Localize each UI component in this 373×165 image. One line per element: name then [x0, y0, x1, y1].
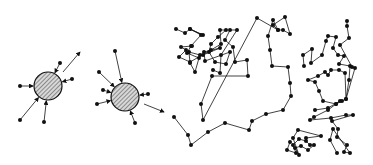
impact-arrow	[97, 101, 110, 104]
particle-group-1	[18, 52, 80, 124]
trajectory-dot	[190, 44, 194, 48]
trajectory-dot	[337, 68, 341, 72]
trajectory-dot	[345, 24, 349, 28]
random-walk-layer	[172, 15, 357, 157]
trajectory-dot	[350, 65, 354, 69]
molecule-dot	[133, 121, 137, 125]
trajectory-dot	[266, 34, 270, 38]
trajectory-dot	[296, 128, 300, 132]
trajectory-dot	[326, 73, 330, 77]
trajectory-dot	[308, 118, 312, 122]
trajectory-dot	[184, 48, 188, 52]
trajectory-dot	[223, 121, 227, 125]
motion-arrow	[144, 104, 164, 112]
impact-arrow	[115, 51, 122, 82]
impact-arrow	[99, 72, 114, 87]
trajectory-dot	[216, 35, 220, 39]
trajectory-dot	[344, 97, 348, 101]
large-particle	[34, 72, 62, 100]
trajectory-dot	[310, 47, 314, 51]
trajectory-dot	[209, 48, 213, 52]
trajectory-dot	[211, 68, 215, 72]
trajectory-dot	[219, 42, 223, 46]
trajectory-dot	[270, 64, 274, 68]
trajectory-dot	[319, 134, 323, 138]
trajectory-dot	[188, 60, 192, 64]
molecule-dot	[95, 102, 99, 106]
trajectory-dot	[302, 64, 306, 68]
trajectory-dot	[335, 135, 339, 139]
trajectory-dot	[312, 115, 316, 119]
trajectory-dot	[268, 48, 272, 52]
trajectory-dot	[188, 27, 192, 31]
trajectory-dot	[183, 31, 187, 35]
trajectory-dot	[335, 151, 339, 155]
molecule-dot	[113, 49, 117, 53]
trajectory-dot	[179, 45, 183, 49]
molecule-dot	[146, 92, 150, 96]
trajectory-dot	[281, 108, 285, 112]
trajectory-dot	[301, 53, 305, 57]
trajectory-dot	[285, 148, 289, 152]
trajectory-dot	[347, 78, 351, 82]
trajectory-dot	[297, 153, 301, 157]
trajectory-dot	[334, 102, 338, 106]
trajectory-dot	[224, 62, 228, 66]
trajectory-dot	[291, 136, 295, 140]
trajectory-dot	[342, 150, 346, 154]
trajectory-dot	[334, 35, 338, 39]
trajectory-dot	[199, 102, 203, 106]
trajectory-dot	[326, 34, 330, 38]
molecule-dot	[42, 120, 46, 124]
trajectory-dot	[288, 32, 292, 36]
trajectory-dot	[209, 42, 213, 46]
trajectory-dot	[316, 74, 320, 78]
trajectory-dot	[210, 74, 214, 78]
trajectory-dot	[343, 71, 347, 75]
trajectory-dot	[233, 60, 237, 64]
trajectory-dot	[246, 74, 250, 78]
trajectory-dot	[213, 60, 217, 64]
trajectory-dot	[224, 28, 228, 32]
trajectory-cluster-b	[285, 128, 323, 157]
trajectory-dot	[202, 50, 206, 54]
trajectory-dot	[336, 127, 340, 131]
trajectory-dot	[342, 54, 346, 58]
trajectory-dot	[206, 130, 210, 134]
trajectory-dot	[223, 38, 227, 42]
trajectory-dot	[177, 55, 181, 59]
trajectory-dot	[247, 128, 251, 132]
trajectory-dot	[313, 80, 317, 84]
trajectory-dot	[293, 146, 297, 150]
trajectory-dot	[228, 50, 232, 54]
molecule-dot	[18, 84, 22, 88]
trajectory-dot	[317, 89, 321, 93]
impact-arrow	[20, 98, 38, 120]
trajectory-dot	[281, 28, 285, 32]
trajectory-dot	[172, 115, 176, 119]
trajectory-dot	[345, 143, 349, 147]
trajectory-dot	[299, 144, 303, 148]
brownian-motion-figure	[0, 0, 373, 165]
molecule-dot	[18, 118, 22, 122]
trajectory-dot	[313, 108, 317, 112]
molecule-dot	[70, 77, 74, 81]
trajectory-dot	[321, 99, 325, 103]
trajectory-dot	[235, 28, 239, 32]
trajectory-dot	[228, 28, 232, 32]
trajectory-dot	[309, 61, 313, 65]
trajectory-dot	[174, 27, 178, 31]
trajectory-dot	[276, 28, 280, 32]
trajectory-cluster-a	[174, 27, 232, 74]
trajectory-dot	[255, 16, 259, 20]
trajectory-dot	[330, 119, 334, 123]
trajectory-cluster-c	[301, 19, 357, 106]
trajectory-dot	[286, 65, 290, 69]
trajectory-dot	[288, 81, 292, 85]
trajectory-dot	[323, 70, 327, 74]
impact-arrow	[44, 101, 46, 122]
trajectory-dot	[245, 58, 249, 62]
particles-layer	[18, 49, 164, 125]
trajectory-dot	[289, 94, 293, 98]
trajectory-dot	[347, 36, 351, 40]
